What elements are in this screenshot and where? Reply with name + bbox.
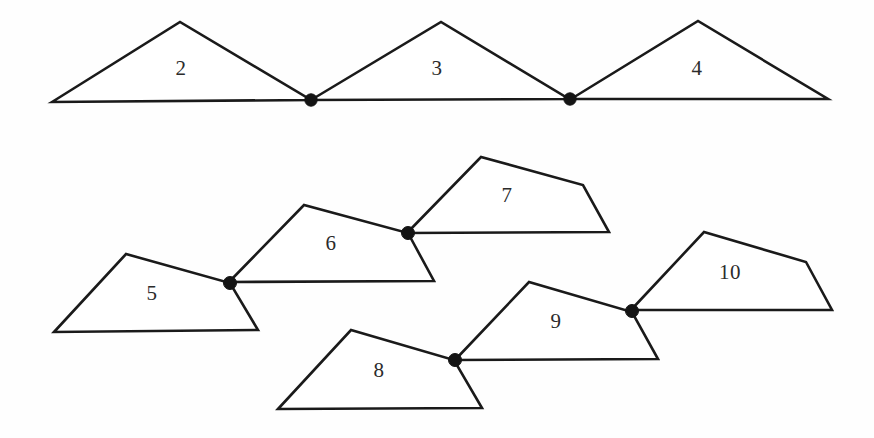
polygon-label-3: 3 — [432, 56, 443, 80]
polygon-label-5: 5 — [147, 281, 158, 305]
joint-dot-8-9 — [449, 354, 462, 367]
polygon-chain-figure: 2 3 4 5 6 7 8 9 10 — [0, 0, 874, 438]
polygon-label-6: 6 — [326, 231, 337, 255]
polygon-label-2: 2 — [176, 56, 187, 80]
joint-dot-3-4 — [564, 93, 576, 105]
polygon-label-8: 8 — [374, 358, 385, 382]
joint-dot-5-6 — [224, 277, 237, 290]
figure-canvas: 2 3 4 5 6 7 8 9 10 — [0, 0, 874, 438]
polygon-label-4: 4 — [692, 56, 703, 80]
polygon-label-7: 7 — [502, 183, 513, 207]
polygon-label-9: 9 — [551, 309, 562, 333]
joint-dot-9-10 — [626, 305, 639, 318]
polygon-label-10: 10 — [719, 260, 741, 284]
joint-dot-6-7 — [402, 227, 415, 240]
joint-dot-2-3 — [305, 94, 317, 106]
